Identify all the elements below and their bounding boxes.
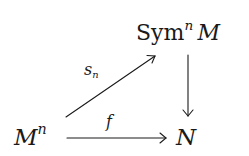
node-m-n: Mn [14, 126, 47, 149]
m-exponent: n [38, 121, 47, 137]
label-sn: sn [84, 62, 99, 78]
sn-subscript: n [92, 69, 98, 80]
arrow-vertical [183, 55, 193, 116]
arrow-sn [66, 56, 155, 118]
node-sym-n-m: Symn M [136, 22, 220, 44]
label-f: f [106, 114, 112, 130]
node-n: N [176, 126, 196, 149]
m-base: M [14, 124, 38, 150]
sym-argument: M [198, 20, 221, 45]
arrow-f [67, 133, 166, 143]
sym-exponent: n [184, 17, 193, 33]
sn-base: s [84, 60, 92, 79]
sym-base: Sym [136, 20, 184, 45]
